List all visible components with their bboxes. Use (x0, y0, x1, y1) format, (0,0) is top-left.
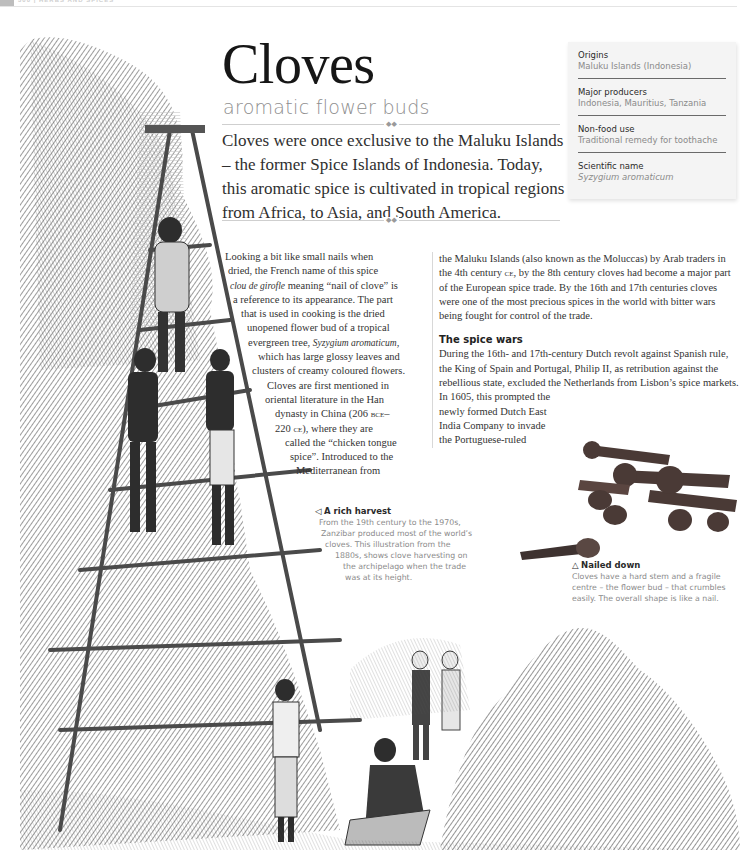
text-line: clou de girofle meaning “nail of clove” … (225, 279, 425, 293)
ornament-divider-bottom: ◆◆ (222, 220, 560, 221)
fact-value: Traditional remedy for toothache (578, 135, 726, 146)
fact-major-producers: Major producers Indonesia, Mauritius, Ta… (578, 85, 726, 116)
caption-heading-line: △ Nailed down (572, 560, 732, 571)
left-arrow-icon: ◁ (315, 506, 322, 516)
page-subtitle: aromatic flower buds (223, 96, 430, 118)
ornament-icon: ◆◆ (384, 217, 399, 224)
text-line: 220 ce), where they are (225, 422, 425, 436)
caption-line: cloves. This illustration from the (315, 539, 515, 550)
caption-heading-line: ◁ A rich harvest (315, 506, 515, 517)
fact-scientific-name: Scientific name Syzygium aromaticum (578, 159, 726, 189)
caption-heading: Nailed down (581, 560, 640, 570)
up-triangle-icon: △ (572, 560, 579, 570)
page-folio: 300 | HERBS AND SPICES (18, 0, 114, 3)
text-line: called the “chicken tongue (225, 436, 425, 450)
caption-line: was at its height. (315, 572, 515, 583)
fact-value: Maluku Islands (Indonesia) (578, 61, 726, 72)
text-line: clusters of creamy coloured flowers. (225, 364, 425, 378)
fact-origins: Origins Maluku Islands (Indonesia) (578, 48, 726, 79)
caption-nailed-down: △ Nailed down Cloves have a hard stem an… (572, 560, 732, 604)
paragraph: During the 16th- and 17th-century Dutch … (439, 347, 739, 390)
cloves-photo (520, 440, 737, 570)
ornament-icon: ◆◆ (384, 121, 399, 128)
fact-box: Origins Maluku Islands (Indonesia) Major… (568, 42, 736, 199)
caption-text: Cloves have a hard stem and a fragile ce… (572, 571, 732, 604)
caption-line: the archipelago when the trade (315, 561, 515, 572)
text-line: Looking a bit like small nails when (225, 250, 425, 264)
paragraph: In 1605, this prompted the newly formed … (439, 390, 557, 447)
text-line: a reference to its appearance. The part (225, 293, 425, 307)
text-line: oriental literature in the Han (225, 393, 425, 407)
fact-non-food-use: Non-food use Traditional remedy for toot… (578, 122, 726, 153)
section-heading: The spice wars (439, 333, 739, 347)
caption-line: From the 19th century to the 1970s, (315, 517, 515, 528)
fact-value: Syzygium aromaticum (578, 172, 726, 183)
fact-value: Indonesia, Mauritius, Tanzania (578, 98, 726, 109)
body-column-1: Looking a bit like small nails when drie… (225, 250, 425, 479)
fact-label: Origins (578, 50, 726, 61)
text-line: unopened flower bud of a tropical (225, 321, 425, 335)
text-line: Mediterranean from (225, 464, 425, 478)
text-line: dried, the French name of this spice (225, 264, 425, 278)
paragraph: the Maluku Islands (also known as the Mo… (439, 252, 739, 323)
fact-label: Major producers (578, 87, 726, 98)
caption-heading: A rich harvest (324, 506, 391, 516)
caption-line: Zanzibar produced most of the world’s (315, 528, 515, 539)
caption-rich-harvest: ◁ A rich harvest From the 19th century t… (315, 506, 515, 583)
ornament-divider-top: ◆◆ (222, 124, 560, 125)
text-line: Cloves are first mentioned in (225, 379, 425, 393)
page-title: Cloves (222, 36, 375, 92)
text-line: which has large glossy leaves and (225, 350, 425, 364)
fact-label: Scientific name (578, 161, 726, 172)
caption-line: 1880s, shows clove harvesting on (315, 550, 515, 561)
intro-paragraph: Cloves were once exclusive to the Maluku… (222, 129, 567, 225)
text-line: spice”. Introduced to the (225, 450, 425, 464)
body-column-2: the Maluku Islands (also known as the Mo… (432, 252, 739, 448)
text-line: dynasty in China (206 bce– (225, 407, 425, 421)
fact-label: Non-food use (578, 124, 726, 135)
page-header: 300 | HERBS AND SPICES (0, 0, 737, 7)
text-line: that is used in cooking is the dried (225, 307, 425, 321)
section-tab (0, 0, 14, 6)
text-line: evergreen tree, Syzygium aromaticum, (225, 336, 425, 350)
